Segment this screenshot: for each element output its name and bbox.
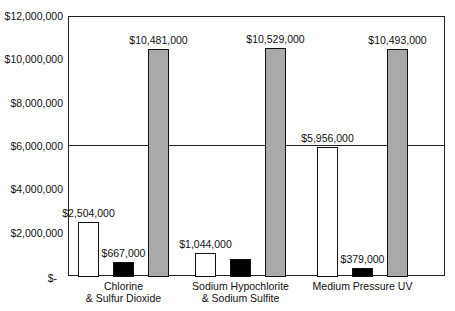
y-tick-label: $6,000,000 [10,140,63,152]
bar [230,259,251,277]
x-category-label: Medium Pressure UV [313,280,413,292]
bar-chart: $-$2,000,000$4,000,000$6,000,000$8,000,0… [0,0,455,311]
y-tick-label: $12,000,000 [5,10,63,22]
y-tick-label: $4,000,000 [10,183,63,195]
bar [387,49,408,277]
x-category-label-line: Medium Pressure UV [313,280,413,292]
x-category-label-line: & Sodium Sulfite [192,292,289,304]
x-category-label-line: & Sulfur Dioxide [86,292,161,304]
bar-value-label: $10,481,000 [129,34,187,46]
y-tick-label: $2,000,000 [10,227,63,239]
x-category-label-line: Sodium Hypochlorite [192,280,289,292]
bar-value-label: $5,956,000 [301,132,354,144]
x-category-label-line: Chlorine [86,280,161,292]
bar-value-label: $10,529,000 [246,33,304,45]
bar [265,48,286,277]
bar [317,147,338,277]
bar [78,222,99,277]
y-tick-label: $10,000,000 [5,53,63,65]
y-tick-label: $8,000,000 [10,97,63,109]
bar [195,253,216,277]
x-category-label: Sodium Hypochlorite& Sodium Sulfite [192,280,289,304]
bar [148,49,169,277]
bar [352,268,373,277]
bar-value-label: $667,000 [102,247,146,259]
bar [113,262,134,277]
y-tick-label: $- [48,272,57,284]
bar-value-label: $1,044,000 [179,238,232,250]
x-category-label: Chlorine& Sulfur Dioxide [86,280,161,304]
bar-value-label: $10,493,000 [368,34,426,46]
bar-value-label: $379,000 [341,253,385,265]
bar-value-label: $2,504,000 [62,207,115,219]
